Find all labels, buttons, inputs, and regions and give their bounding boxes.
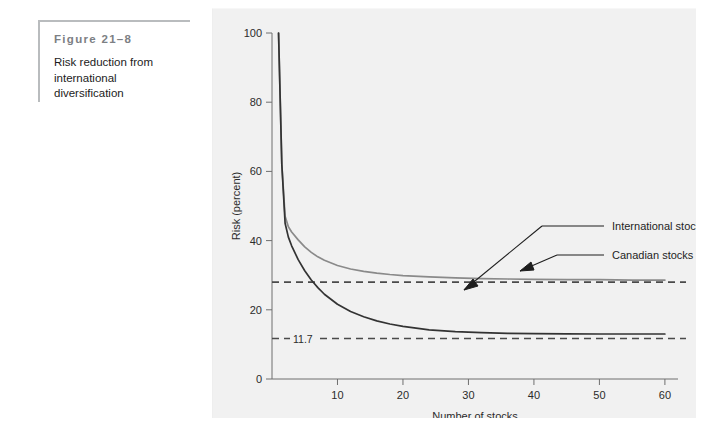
figure-description: Risk reduction from international divers… xyxy=(54,55,186,102)
international-stocks-arrow-shaft xyxy=(464,226,542,290)
y-axis-title: Risk (percent) xyxy=(230,172,242,240)
figure-page: Figure 21–8 Risk reduction from internat… xyxy=(0,0,726,433)
risk-reduction-chart: 020406080100102030405060Number of stocks… xyxy=(212,8,696,418)
x-axis-title: Number of stocks xyxy=(432,410,518,418)
canadian-stocks-arrowhead xyxy=(520,262,534,271)
y-tick-label: 60 xyxy=(250,165,262,177)
x-tick-label: 10 xyxy=(331,389,343,401)
international-stocks-label: International stocks xyxy=(612,220,696,232)
figure-number: Figure 21–8 xyxy=(54,33,186,46)
x-tick-label: 30 xyxy=(462,389,474,401)
series-line-canadian-stocks xyxy=(279,33,665,280)
chart-panel: 020406080100102030405060Number of stocks… xyxy=(212,8,696,418)
figure-caption: Figure 21–8 Risk reduction from internat… xyxy=(38,21,186,102)
x-tick-label: 40 xyxy=(528,389,540,401)
y-tick-label: 80 xyxy=(250,96,262,108)
y-tick-label: 20 xyxy=(250,304,262,316)
canadian-stocks-label: Canadian stocks xyxy=(612,249,694,261)
x-tick-label: 50 xyxy=(593,389,605,401)
x-tick-label: 20 xyxy=(397,389,409,401)
y-tick-label: 40 xyxy=(250,235,262,247)
series-line-international-stocks xyxy=(279,33,665,334)
international-asymptote-label: 11.7 xyxy=(293,333,313,345)
y-tick-label: 0 xyxy=(256,373,262,385)
caption-rule-mask xyxy=(36,112,42,152)
y-tick-label: 100 xyxy=(244,27,262,39)
x-tick-label: 60 xyxy=(659,389,671,401)
